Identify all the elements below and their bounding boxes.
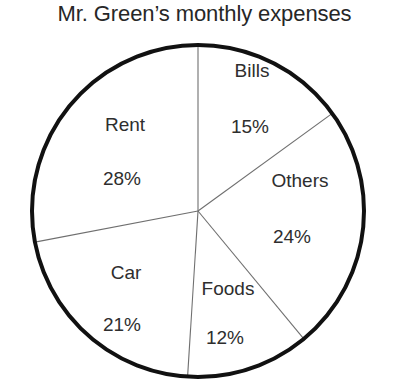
slice-value-bills: 15%	[231, 117, 269, 136]
pie-chart: Mr. Green’s monthly expenses Bills15%Oth…	[0, 0, 409, 389]
slice-label-others: Others	[271, 171, 328, 190]
slice-label-bills: Bills	[235, 61, 270, 80]
slice-value-car: 21%	[103, 315, 141, 334]
slice-value-foods: 12%	[206, 328, 244, 347]
slice-value-rent: 28%	[103, 169, 141, 188]
slice-label-car: Car	[111, 263, 142, 282]
slice-label-rent: Rent	[105, 115, 145, 134]
slice-value-others: 24%	[273, 227, 311, 246]
pie-graphic	[0, 0, 409, 389]
pie-slice-rent[interactable]	[32, 45, 198, 242]
slice-label-foods: Foods	[202, 279, 255, 298]
